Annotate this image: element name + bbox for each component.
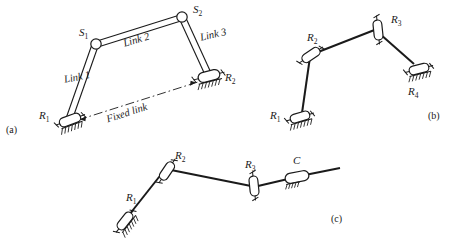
joint-S1-symbol [91, 39, 101, 49]
joint-C-symbol [283, 170, 311, 190]
label-joint-R1-panel-c: R1 [126, 192, 136, 206]
joint-S2-symbol [177, 12, 187, 22]
panel-b-bar-R1-R2 [302, 57, 310, 113]
label-joint-S2-panel-a: S2 [193, 4, 202, 18]
panel-b-bar-R2-R3 [313, 29, 377, 54]
panel-c-bar-R3-C [258, 179, 288, 186]
figure-canvas: R1 S1 S2 R2 Link 1 Link 2 Link 3 Fixed l… [0, 0, 456, 244]
caption-panel-b: (b) [428, 110, 440, 121]
joint-R1a-symbol [53, 110, 88, 136]
joint-R2b-symbol [296, 43, 326, 67]
caption-panel-a: (a) [6, 124, 17, 135]
joint-R1c-symbol [112, 207, 142, 240]
joint-R4b-symbol [403, 61, 436, 83]
label-joint-R1-panel-a: R1 [39, 110, 49, 124]
caption-panel-c: (c) [331, 213, 342, 224]
panel-c-bar-R2-R3 [171, 170, 251, 186]
panel-b-bar-R3-R4 [380, 34, 414, 64]
label-joint-S1-panel-a: S1 [79, 27, 88, 41]
joint-R3b-symbol [372, 14, 384, 45]
joint-R3c-symbol [248, 170, 260, 201]
label-joint-R3-panel-b: R3 [391, 14, 401, 28]
panel-c-bar-C-end [305, 168, 340, 175]
label-joint-R2-panel-a: R2 [225, 72, 235, 86]
joint-R2a-symbol [191, 67, 227, 91]
label-joint-R4-panel-b: R4 [408, 86, 418, 100]
label-joint-R3-panel-c: R3 [245, 159, 255, 173]
label-joint-R2-panel-b: R2 [307, 32, 317, 46]
panel-c-geometry [112, 157, 340, 240]
label-joint-R2-panel-c: R2 [175, 150, 185, 164]
label-joint-C-panel-c: C [293, 155, 300, 169]
label-joint-R1-panel-b: R1 [270, 110, 280, 124]
link-3-bar [179, 16, 212, 77]
joint-R1b-symbol [284, 109, 317, 131]
